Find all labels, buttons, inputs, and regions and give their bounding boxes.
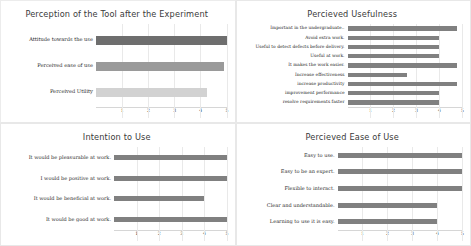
bar-rows: It would be pleasurable at work.I would …: [7, 147, 227, 230]
bar: [348, 45, 440, 49]
category-label: It would be beneficial at work.: [7, 196, 114, 201]
x-tick-label: 3: [180, 232, 183, 237]
category-label: Easy to use.: [243, 153, 338, 158]
bar-track: [348, 98, 463, 107]
x-tick-label: 2: [392, 109, 395, 114]
category-label: improvement performance: [243, 91, 348, 95]
bar: [348, 26, 458, 30]
chart-panel-percieved-ease-of-use: Percieved Ease of Use Easy to use.Easy t…: [236, 123, 471, 246]
category-label: It makes the work easier.: [243, 63, 348, 67]
category-label: Useful to detect defects before delivery…: [243, 45, 348, 49]
x-tick-label: 5: [461, 232, 464, 237]
plot-area: It would be pleasurable at work.I would …: [7, 147, 227, 241]
plot-area: Important in the undergraduate..Avoid ex…: [243, 24, 463, 118]
category-label: increase productivity: [243, 82, 348, 86]
bar: [348, 100, 440, 104]
x-tick-label: 4: [438, 109, 441, 114]
bar-row: Useful to detect defects before delivery…: [243, 42, 463, 51]
bar-row: Flexible to interact.: [243, 180, 463, 197]
bar-track: [96, 53, 227, 79]
bar-row: It makes the work easier.: [243, 61, 463, 70]
bar-row: Avoid extra work.: [243, 33, 463, 42]
category-label: Attitude towards the use: [7, 37, 96, 42]
bar: [338, 169, 463, 174]
axis-line: [114, 230, 227, 231]
x-tick-label: 3: [411, 232, 414, 237]
category-label: Flexible to interact.: [243, 186, 338, 191]
bar-row: It would be good at work.: [7, 209, 227, 230]
chart-title: Intention to Use: [7, 133, 227, 142]
x-tick-label: 4: [436, 232, 439, 237]
category-label: Avoid extra work.: [243, 36, 348, 40]
bar-track: [338, 147, 463, 164]
bar-track: [114, 147, 227, 168]
bar: [338, 153, 463, 158]
bar: [348, 54, 440, 58]
bar-track: [338, 180, 463, 197]
bar-row: I would be positive at work.: [7, 168, 227, 189]
axis-line: [348, 107, 463, 108]
bar-track: [348, 52, 463, 61]
bar-row: improvement performance: [243, 89, 463, 98]
x-tick-label: 2: [386, 232, 389, 237]
bar-track: [348, 61, 463, 70]
bar: [348, 91, 440, 95]
chart-grid: Perception of the Tool after the Experim…: [0, 0, 471, 246]
bar: [338, 219, 438, 224]
chart-title: Percieved Ease of Use: [243, 133, 463, 142]
bar: [114, 196, 204, 201]
bar-track: [348, 89, 463, 98]
bar-row: Clear and understandable.: [243, 197, 463, 214]
category-label: Learning to use it is easy.: [243, 219, 338, 224]
bar-row: increase productivity: [243, 79, 463, 88]
axis-line: [338, 230, 463, 231]
chart-title: Percieved Usefulness: [243, 10, 463, 19]
x-tick-label: 1: [135, 232, 138, 237]
category-label: It would be pleasurable at work.: [7, 155, 114, 160]
x-tick-label: 2: [147, 109, 150, 114]
bar-row: Attitude towards the use: [7, 27, 227, 53]
chart-panel-intention-to-use: Intention to Use It would be pleasurable…: [0, 123, 236, 246]
x-tick-label: 5: [226, 109, 229, 114]
x-tick-label: 1: [361, 232, 364, 237]
gridline: [462, 24, 463, 118]
x-axis: 12345: [7, 107, 227, 118]
x-tick-label: 3: [415, 109, 418, 114]
bar: [114, 176, 227, 181]
category-label: Useful at work.: [243, 54, 348, 58]
bar-track: [114, 209, 227, 230]
bar-track: [114, 189, 227, 210]
bar-rows: Easy to use.Easy to be an expert.Flexibl…: [243, 147, 463, 230]
bar: [338, 203, 438, 208]
bar-row: Important in the undergraduate..: [243, 24, 463, 33]
x-tick-label: 1: [369, 109, 372, 114]
x-axis: 12345: [243, 107, 463, 118]
bar-row: Useful at work.: [243, 52, 463, 61]
bar-track: [96, 79, 227, 105]
category-label: Perceived ease of use: [7, 63, 96, 68]
bar-row: Learning to use it is easy.: [243, 213, 463, 230]
bar-rows: Important in the undergraduate..Avoid ex…: [243, 24, 463, 107]
gridline: [462, 147, 463, 241]
bar-track: [96, 27, 227, 53]
category-label: Clear and understandable.: [243, 203, 338, 208]
bar-row: resolve requirements faster: [243, 98, 463, 107]
bar-track: [348, 33, 463, 42]
bar-row: Perceived Utility: [7, 79, 227, 105]
bar: [96, 88, 207, 97]
bar-track: [348, 42, 463, 51]
x-tick-label: 5: [226, 232, 229, 237]
x-axis: 12345: [243, 230, 463, 241]
plot-area: Attitude towards the usePerceived ease o…: [7, 24, 227, 118]
bar: [348, 82, 458, 86]
category-label: Easy to be an expert.: [243, 169, 338, 174]
bar-track: [338, 213, 463, 230]
bar-track: [348, 79, 463, 88]
bar: [96, 62, 224, 71]
x-tick-label: 3: [173, 109, 176, 114]
bar-row: Perceived ease of use: [7, 53, 227, 79]
bar-row: Easy to be an expert.: [243, 164, 463, 181]
category-label: Perceived Utility: [7, 89, 96, 94]
bar: [96, 36, 227, 45]
plot-area: Easy to use.Easy to be an expert.Flexibl…: [243, 147, 463, 241]
